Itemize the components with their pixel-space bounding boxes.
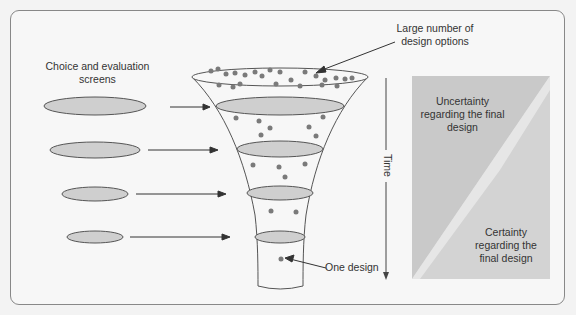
arrow-right-icon [222,234,230,240]
choice-screens-label: Choice and evaluation screens [40,60,155,86]
arrow-right-icon [210,147,218,153]
one-design-label: One design [325,261,395,274]
time-label: Time [381,151,394,181]
uncertainty-label: Uncertainty regarding the final design [420,95,505,134]
arrow-right-icon [203,104,210,110]
funnel-diagram [0,0,576,315]
design-options-label: Large number of design options [390,22,480,48]
choice-screens [44,97,146,243]
certainty-label: Certainty regarding the final design [468,226,544,265]
arrow-right-icon [218,191,226,197]
screen-arrows [130,104,230,240]
arrow-icon [285,255,294,262]
